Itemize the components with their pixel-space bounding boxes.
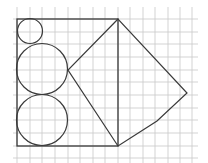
outer-rectangle <box>17 19 118 146</box>
grid-lines <box>13 7 198 163</box>
geometry-diagram <box>0 0 208 163</box>
right-polygon <box>68 19 187 146</box>
